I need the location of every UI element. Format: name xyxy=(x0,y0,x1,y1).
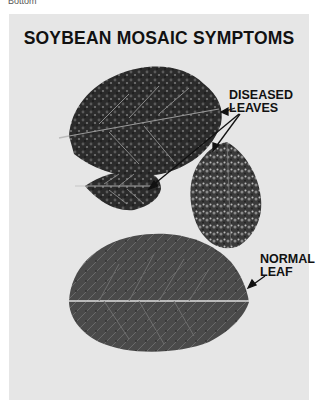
diseased-leaf-large xyxy=(59,67,222,177)
diseased-label-line2: LEAVES xyxy=(229,102,293,115)
normal-leaf-label: NORMAL LEAF xyxy=(260,253,315,279)
cropped-caption: Bottom xyxy=(8,0,37,6)
diseased-leaf-small xyxy=(75,170,161,210)
figure-panel: SOYBEAN MOSAIC SYMPTOMS xyxy=(9,14,309,400)
leaf-illustration xyxy=(9,14,309,400)
diseased-leaf-mottled xyxy=(190,142,261,248)
diseased-leaves-label: DISEASED LEAVES xyxy=(229,89,293,115)
normal-label-line2: LEAF xyxy=(260,266,315,279)
normal-leaf xyxy=(67,234,249,352)
